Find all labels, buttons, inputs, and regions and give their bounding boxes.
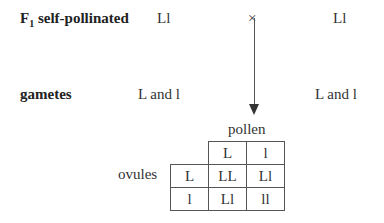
- gametes-parent1: L and l: [138, 86, 180, 103]
- ovule-header-l: l: [170, 187, 209, 211]
- gametes-parent2: L and l: [315, 86, 357, 103]
- pollen-label: pollen: [228, 121, 266, 138]
- parent1-genotype: Ll: [157, 10, 170, 27]
- pollen-header-l: l: [246, 141, 285, 165]
- punnett-cell: ll: [246, 187, 285, 211]
- gametes-label: gametes: [20, 86, 72, 103]
- punnett-cell: LL: [208, 164, 247, 188]
- ovules-label: ovules: [118, 166, 157, 183]
- punnett-cell: Ll: [208, 187, 247, 211]
- pollen-header-L: L: [208, 141, 247, 165]
- ovule-header-L: L: [170, 164, 209, 188]
- cross-symbol: ×: [248, 10, 256, 27]
- f1-label: F1 self-pollinated: [20, 10, 129, 29]
- punnett-cell: Ll: [246, 164, 285, 188]
- arrow-line: [254, 18, 255, 106]
- arrow-down-icon: [249, 104, 259, 115]
- parent2-genotype: Ll: [333, 10, 346, 27]
